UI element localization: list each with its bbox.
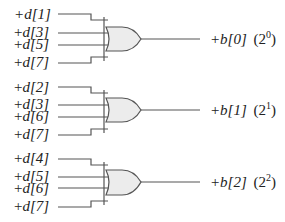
input-label: +d[1] <box>14 6 51 22</box>
gate-group-b1: +d[2] +d[3] +d[6] +d[7] +b[1] (21) <box>14 79 276 142</box>
input-label: +d[6] <box>14 180 49 196</box>
or-gate-icon <box>106 170 141 195</box>
or-gate-icon <box>106 27 141 51</box>
or-gate-icon <box>106 98 141 122</box>
input-wire <box>58 129 108 135</box>
input-label: +d[2] <box>14 79 49 95</box>
input-label: +d[7] <box>14 54 49 70</box>
input-label: +d[4] <box>14 150 49 166</box>
input-wire <box>58 14 108 20</box>
input-label: +d[6] <box>14 108 49 124</box>
gate-group-b2: +d[4] +d[5] +d[6] +d[7] +b[2] (22) <box>14 150 276 214</box>
output-label: +b[0] (20) <box>210 29 276 48</box>
input-wire <box>58 57 108 63</box>
input-wire <box>58 87 108 93</box>
input-label: +d[5] <box>14 36 49 52</box>
output-label: +b[2] (22) <box>210 172 276 191</box>
input-wire <box>58 159 108 165</box>
input-label: +d[7] <box>14 126 49 142</box>
or-gate-encoder-diagram: +d[1] +d[3] +d[5] +d[7] +b[0] (20) +d[2]… <box>0 0 285 222</box>
gate-group-b0: +d[1] +d[3] +d[5] +d[7] +b[0] (20) <box>14 6 276 70</box>
input-wire <box>58 201 108 207</box>
input-label: +d[7] <box>14 198 49 214</box>
output-label: +b[1] (21) <box>210 100 276 119</box>
